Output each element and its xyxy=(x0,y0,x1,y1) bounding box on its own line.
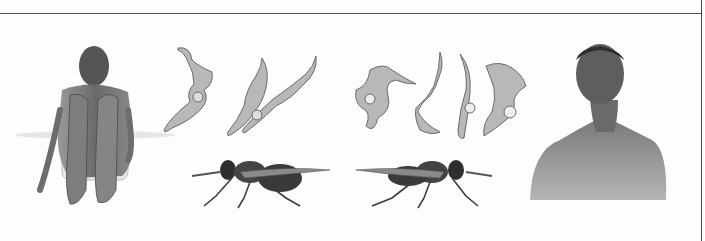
trypanosomes-right xyxy=(356,52,526,138)
tsetse-fly-left xyxy=(192,160,330,208)
patient-bust xyxy=(530,44,666,200)
illustration xyxy=(0,0,705,241)
tsetse-fly-right xyxy=(356,160,492,208)
patient-seated xyxy=(15,46,175,204)
trypanosomes-left xyxy=(164,48,316,136)
